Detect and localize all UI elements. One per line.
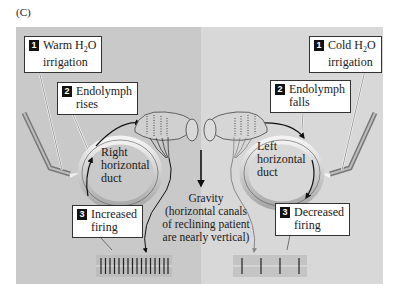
callout-text: irrigation bbox=[314, 56, 376, 69]
gravity-caption-line: (horizontal canals bbox=[146, 205, 266, 218]
callout-text: firing bbox=[280, 219, 344, 232]
callout-text: Increased bbox=[91, 207, 137, 221]
increased-firing-trace bbox=[96, 255, 172, 277]
step-badge: 3 bbox=[280, 207, 290, 218]
gravity-caption-line: Gravity bbox=[146, 192, 266, 205]
callout-text: O bbox=[88, 38, 97, 52]
step-badge: 3 bbox=[77, 209, 87, 220]
left-duct-label: Left horizontal duct bbox=[257, 140, 306, 179]
decreased-firing-trace bbox=[233, 255, 307, 277]
duct-label-line: duct bbox=[101, 172, 150, 185]
callout-text: Endolymph bbox=[76, 84, 132, 98]
callout-warm-irrigation: 1Warm H2O irrigation bbox=[24, 36, 102, 73]
callout-text: falls bbox=[275, 96, 345, 109]
callout-text: rises bbox=[62, 98, 132, 111]
step-badge: 2 bbox=[62, 86, 72, 97]
callout-text: Warm H bbox=[43, 38, 84, 52]
callout-text: O bbox=[367, 38, 376, 52]
callout-text: Endolymph bbox=[289, 82, 345, 96]
callout-endolymph-rises: 2Endolymph rises bbox=[57, 82, 138, 115]
callout-cold-irrigation: 1Cold H2O irrigation bbox=[309, 36, 382, 73]
callout-decreased-firing: 3Decreased firing bbox=[275, 203, 350, 236]
callout-text: Cold H bbox=[328, 38, 363, 52]
callout-text: Decreased bbox=[294, 205, 344, 219]
callout-text: firing bbox=[77, 221, 137, 234]
callout-increased-firing: 3Increased firing bbox=[72, 205, 143, 238]
gravity-caption-line: of reclining patient bbox=[146, 218, 266, 231]
duct-label-line: duct bbox=[257, 166, 306, 179]
callout-text: irrigation bbox=[29, 56, 96, 69]
right-duct-label: Right horizontal duct bbox=[101, 146, 150, 185]
gravity-caption: Gravity (horizontal canals of reclining … bbox=[146, 192, 266, 244]
step-badge: 1 bbox=[29, 40, 39, 51]
callout-endolymph-falls: 2Endolymph falls bbox=[270, 80, 351, 113]
step-badge: 2 bbox=[275, 84, 285, 95]
syringe-left bbox=[24, 113, 82, 178]
step-badge: 1 bbox=[314, 40, 324, 51]
syringe-right bbox=[318, 113, 375, 178]
gravity-caption-line: are nearly vertical) bbox=[146, 231, 266, 244]
